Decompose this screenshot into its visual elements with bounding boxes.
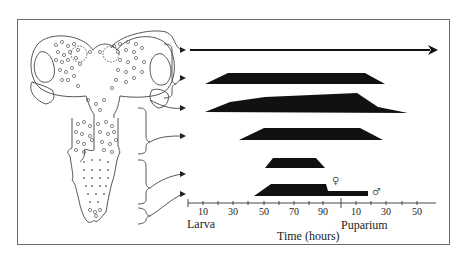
bar-row-4 (239, 128, 383, 140)
phase-label-puparium: Puparium (341, 219, 388, 231)
tick-label-larva-50: 50 (259, 207, 269, 217)
tick-label-puparium-30: 30 (381, 207, 391, 217)
tick-label-larva-90: 90 (318, 207, 328, 217)
bar-row-5 (265, 158, 325, 168)
region-brackets (138, 44, 176, 224)
larval-cns-illustration (31, 36, 175, 223)
connector-arrows (111, 31, 184, 216)
phase-label-larva: Larva (187, 218, 215, 230)
bar-row-3 (205, 93, 408, 113)
male-symbol-icon: ♂ (372, 187, 381, 197)
tick-label-puparium-50: 50 (412, 207, 422, 217)
tick-label-puparium-10: 10 (351, 207, 361, 217)
female-symbol-icon: ♀ (332, 176, 339, 186)
bar-row-6 (254, 184, 368, 196)
axis-title: Time (hours) (277, 230, 340, 242)
time-axis (188, 198, 436, 208)
tick-label-larva-10: 10 (198, 207, 208, 217)
abdominal-dots (83, 159, 109, 203)
timeline-bars (190, 45, 438, 196)
terminal-dots (88, 208, 101, 217)
tick-label-larva-70: 70 (289, 207, 299, 217)
bar-row-2 (205, 73, 385, 84)
diagram-canvas (0, 0, 464, 258)
tick-label-larva-30: 30 (228, 207, 238, 217)
arrowheads (180, 47, 186, 197)
